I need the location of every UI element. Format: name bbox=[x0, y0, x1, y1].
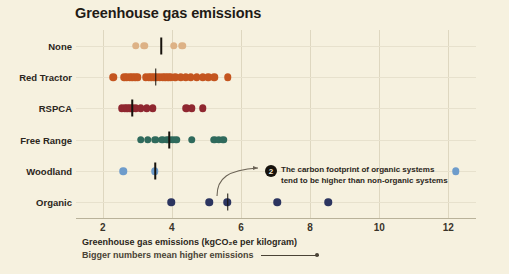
median-marker bbox=[132, 100, 134, 117]
direction-arrow-icon bbox=[261, 255, 319, 256]
row-baseline bbox=[76, 140, 476, 141]
annotation-line-2: tend to be higher than non-organic syste… bbox=[281, 176, 448, 185]
data-point bbox=[109, 73, 117, 81]
data-point bbox=[274, 199, 282, 207]
y-axis-label-woodland: Woodland bbox=[26, 166, 72, 177]
median-marker bbox=[155, 163, 157, 180]
x-axis-tick-label: 6 bbox=[238, 222, 244, 233]
data-point bbox=[134, 73, 142, 81]
data-point bbox=[132, 42, 140, 50]
data-point bbox=[172, 136, 180, 144]
x-axis-tick-label: 12 bbox=[443, 222, 454, 233]
data-point bbox=[224, 73, 232, 81]
x-axis-line bbox=[76, 218, 476, 219]
y-axis-labels: NoneRed TractorRSPCAFree RangeWoodlandOr… bbox=[0, 30, 72, 218]
y-axis-label-red-tractor: Red Tractor bbox=[19, 72, 72, 83]
y-axis-label-rspca: RSPCA bbox=[39, 103, 72, 114]
ghg-emissions-chart: Greenhouse gas emissions NoneRed Tractor… bbox=[0, 0, 509, 274]
data-point bbox=[167, 199, 175, 207]
median-marker bbox=[155, 69, 157, 86]
grid-line bbox=[310, 30, 311, 218]
grid-line bbox=[241, 30, 242, 218]
y-axis-label-organic: Organic bbox=[36, 197, 72, 208]
median-marker bbox=[227, 194, 229, 211]
plot-area bbox=[82, 30, 476, 218]
data-point bbox=[178, 42, 186, 50]
data-point bbox=[188, 136, 196, 144]
data-point bbox=[120, 167, 128, 175]
y-axis-label-none: None bbox=[48, 40, 72, 51]
chart-title: Greenhouse gas emissions bbox=[75, 5, 261, 21]
annotation-line-1: The carbon footprint of organic systems bbox=[281, 165, 434, 174]
annotation-badge: 2 bbox=[265, 165, 277, 177]
x-axis-tick-label: 2 bbox=[100, 222, 106, 233]
median-marker bbox=[169, 131, 171, 148]
data-point bbox=[205, 199, 213, 207]
data-point bbox=[170, 42, 178, 50]
x-axis-subtitle-text: Bigger numbers mean higher emissions bbox=[82, 250, 254, 260]
data-point bbox=[188, 105, 196, 113]
grid-line bbox=[103, 30, 104, 218]
data-point bbox=[149, 105, 157, 113]
annotation-text: The carbon footprint of organic systems … bbox=[281, 165, 486, 186]
data-point bbox=[219, 136, 227, 144]
x-axis-tick-label: 8 bbox=[307, 222, 313, 233]
grid-line bbox=[172, 30, 173, 218]
y-axis-label-free-range: Free Range bbox=[20, 134, 72, 145]
data-point bbox=[199, 105, 207, 113]
median-marker bbox=[161, 37, 163, 54]
data-point bbox=[144, 136, 152, 144]
grid-line bbox=[379, 30, 380, 218]
x-axis-tick-label: 10 bbox=[374, 222, 385, 233]
x-axis-title: Greenhouse gas emissions (kgCO₂e per kil… bbox=[82, 237, 297, 247]
grid-line bbox=[448, 30, 449, 218]
x-axis-tick-label: 4 bbox=[169, 222, 175, 233]
data-point bbox=[324, 199, 332, 207]
data-point bbox=[210, 73, 218, 81]
data-point bbox=[140, 42, 148, 50]
x-axis-subtitle: Bigger numbers mean higher emissions bbox=[82, 250, 319, 260]
